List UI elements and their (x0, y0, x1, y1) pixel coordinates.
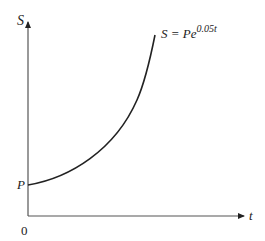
curve-equation-exponent: 0.05t (196, 23, 217, 34)
y-axis-label: S (17, 13, 24, 28)
x-axis-label: t (249, 208, 253, 223)
curve-equation-base: S = Pe (161, 26, 197, 41)
exponential-growth-chart: S t 0 P S = Pe0.05t (0, 0, 265, 241)
origin-label: 0 (21, 223, 28, 238)
curve-equation: S = Pe0.05t (161, 23, 217, 41)
growth-curve (28, 35, 155, 185)
intercept-label: P (16, 177, 25, 192)
